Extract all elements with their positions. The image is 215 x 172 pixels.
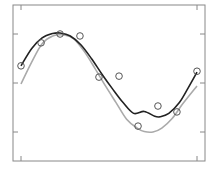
plot-area: [0, 0, 215, 172]
chart-canvas: [0, 0, 215, 172]
data-markers: [18, 31, 201, 130]
data-point-marker: [116, 73, 123, 80]
data-point-marker: [155, 103, 162, 110]
fit-line: [21, 33, 197, 117]
data-point-marker: [77, 33, 84, 40]
